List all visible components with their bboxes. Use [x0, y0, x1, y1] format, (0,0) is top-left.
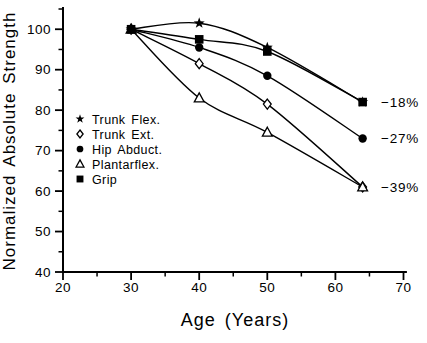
marker-square: [127, 25, 136, 34]
marker-circle: [358, 134, 366, 142]
legend-item-circle: Hip Abduct.: [77, 143, 163, 157]
pct-change-label: −27%: [381, 131, 419, 146]
x-tick-label: 70: [395, 280, 411, 295]
marker-circle: [195, 43, 203, 51]
marker-star: [194, 17, 205, 27]
legend-label-star: Trunk Flex.: [92, 113, 160, 127]
legend-label-diamond: Trunk Ext.: [92, 128, 155, 142]
legend-item-star: Trunk Flex.: [76, 113, 161, 127]
legend-triangle-icon: [76, 160, 84, 167]
marker-diamond: [263, 99, 271, 109]
y-tick-label: 90: [35, 62, 51, 77]
legend-label-square: Grip: [92, 173, 117, 187]
legend-circle-icon: [77, 146, 84, 153]
marker-circle: [263, 72, 271, 80]
y-axis-title: Normalized Absolute Strength: [0, 12, 19, 271]
legend-label-circle: Hip Abduct.: [92, 143, 162, 157]
y-tick-label: 70: [35, 143, 51, 158]
y-tick-label: 50: [35, 224, 51, 239]
legend-diamond-icon: [77, 130, 83, 138]
legend-item-diamond: Trunk Ext.: [77, 128, 155, 142]
legend-item-triangle: Plantarflex.: [76, 158, 159, 172]
marker-triangle: [262, 127, 272, 136]
annotation-layer: −18%−27%−39%: [381, 95, 419, 195]
x-tick-label: 50: [259, 280, 275, 295]
x-tick-label: 60: [327, 280, 343, 295]
series-line-triangle: [131, 29, 363, 187]
pct-change-label: −18%: [381, 95, 419, 110]
legend-label-triangle: Plantarflex.: [92, 158, 159, 172]
legend: Trunk Flex.Trunk Ext.Hip Abduct.Plantarf…: [76, 113, 163, 187]
legend-square-icon: [77, 176, 84, 183]
y-tick-label: 60: [35, 184, 51, 199]
x-axis-title: Age (Years): [181, 310, 289, 330]
x-tick-label: 40: [191, 280, 207, 295]
axes-layer: 203040506070405060708090100: [27, 7, 412, 295]
legend-star-icon: [76, 114, 85, 122]
pct-change-label: −39%: [381, 180, 419, 195]
y-tick-label: 80: [35, 103, 51, 118]
marker-diamond: [195, 59, 203, 69]
y-tick-label: 40: [35, 265, 51, 280]
x-tick-label: 20: [55, 280, 71, 295]
strength-vs-age-line-chart: 203040506070405060708090100 Trunk Flex.T…: [0, 0, 427, 343]
legend-item-square: Grip: [77, 173, 118, 187]
marker-triangle: [194, 93, 204, 102]
series-line-diamond: [131, 29, 363, 187]
marker-square: [263, 47, 272, 56]
series-layer: [126, 17, 369, 192]
marker-square: [358, 98, 367, 107]
figure-container: 203040506070405060708090100 Trunk Flex.T…: [0, 0, 427, 343]
marker-square: [195, 35, 204, 44]
x-tick-label: 30: [123, 280, 139, 295]
y-tick-label: 100: [27, 22, 51, 37]
